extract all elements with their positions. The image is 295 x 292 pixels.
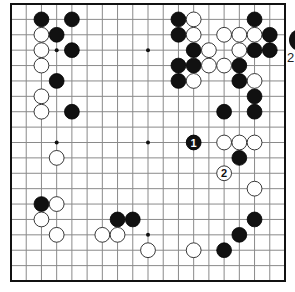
black-stone xyxy=(247,12,262,27)
black-stone xyxy=(232,74,247,89)
white-stone xyxy=(217,27,232,42)
black-stone xyxy=(49,27,64,42)
white-stone xyxy=(34,212,49,227)
white-stone xyxy=(232,27,247,42)
white-stone xyxy=(49,197,64,212)
partial-black-stone-icon xyxy=(289,29,295,51)
hoshi-point xyxy=(146,48,150,52)
white-stone xyxy=(95,227,110,242)
black-stone xyxy=(186,58,201,73)
white-stone xyxy=(186,12,201,27)
next-diagram-label: 2 xyxy=(287,50,294,65)
black-stone xyxy=(232,58,247,73)
black-stone xyxy=(34,12,49,27)
go-board: 12 xyxy=(0,0,295,292)
black-stone xyxy=(64,12,79,27)
black-stone xyxy=(110,212,125,227)
white-stone xyxy=(247,74,262,89)
hoshi-point xyxy=(146,141,150,145)
move-number-label: 1 xyxy=(191,137,197,149)
black-stone xyxy=(262,27,277,42)
black-stone xyxy=(186,43,201,58)
hoshi-point xyxy=(146,233,150,237)
black-stone xyxy=(125,212,140,227)
white-stone xyxy=(186,74,201,89)
white-stone xyxy=(34,58,49,73)
white-stone xyxy=(141,243,156,258)
black-stone xyxy=(171,27,186,42)
black-stone xyxy=(171,74,186,89)
black-stone xyxy=(217,104,232,119)
black-stone xyxy=(232,150,247,165)
white-stone xyxy=(49,227,64,242)
white-stone xyxy=(201,43,216,58)
white-stone xyxy=(247,135,262,150)
white-stone xyxy=(186,27,201,42)
white-stone xyxy=(232,135,247,150)
white-stone xyxy=(201,58,216,73)
white-stone xyxy=(232,43,247,58)
black-stone xyxy=(247,212,262,227)
black-stone xyxy=(247,104,262,119)
black-stone xyxy=(247,43,262,58)
black-stone xyxy=(64,43,79,58)
white-stone xyxy=(34,104,49,119)
white-stone xyxy=(34,43,49,58)
move-number-label: 2 xyxy=(221,167,227,179)
black-stone xyxy=(34,197,49,212)
white-stone xyxy=(217,58,232,73)
white-stone xyxy=(247,27,262,42)
white-stone xyxy=(49,150,64,165)
white-stone xyxy=(34,27,49,42)
hoshi-point xyxy=(55,141,59,145)
stones xyxy=(34,12,277,258)
white-stone xyxy=(186,243,201,258)
white-stone xyxy=(217,135,232,150)
black-stone xyxy=(64,104,79,119)
white-stone xyxy=(247,181,262,196)
black-stone xyxy=(232,227,247,242)
black-stone xyxy=(49,74,64,89)
black-stone xyxy=(247,89,262,104)
black-stone xyxy=(171,58,186,73)
black-stone xyxy=(217,243,232,258)
hoshi-point xyxy=(55,48,59,52)
white-stone xyxy=(110,227,125,242)
black-stone xyxy=(171,12,186,27)
white-stone xyxy=(34,89,49,104)
black-stone xyxy=(262,43,277,58)
